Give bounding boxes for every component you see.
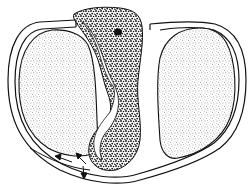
anatomical-figure (0, 0, 252, 191)
right-stippled-lobe (158, 28, 235, 158)
figure-svg (0, 0, 252, 191)
arrow-icon (81, 166, 87, 179)
central-mass-dark-spot (114, 29, 122, 36)
